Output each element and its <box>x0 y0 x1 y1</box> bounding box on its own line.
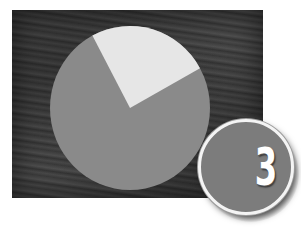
step-number-badge: 3 <box>198 119 294 215</box>
badge-number: 3 <box>255 134 277 200</box>
pie-chart <box>49 25 211 191</box>
pie-chart-svg <box>49 25 211 191</box>
